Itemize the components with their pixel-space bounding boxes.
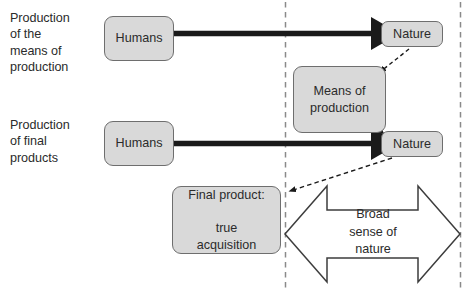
node-nature-top[interactable]: Nature [381,21,443,47]
node-final-product[interactable]: Final product: true acquisition [172,186,281,254]
section-label-production-of-means: Production of the means of production [10,10,102,75]
section-label-production-of-final-products: Production of final products [10,117,102,166]
diagram-canvas: Production of the means of production Pr… [0,0,473,291]
node-nature-bottom[interactable]: Nature [381,131,443,157]
node-means-of-production[interactable]: Means of production [293,66,386,133]
broad-sense-of-nature-label: Broad sense of nature [330,206,416,259]
connector-nature2-to-final [290,158,392,191]
node-humans-bottom[interactable]: Humans [104,121,174,166]
node-humans-top[interactable]: Humans [104,16,174,61]
connector-nature1-to-means [380,49,409,72]
